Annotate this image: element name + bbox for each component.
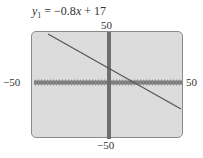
title-subscript: 1 <box>37 11 41 20</box>
x-min-label: −50 <box>3 76 20 88</box>
title-tail: + 17 <box>81 4 106 18</box>
equation-title: y1 = −0.8x + 17 <box>32 4 106 20</box>
plotted-line <box>48 34 181 109</box>
y-max-label: 50 <box>101 19 112 31</box>
plot-area <box>32 32 184 139</box>
y-min-label: −50 <box>97 139 114 151</box>
title-rhs: = −0.8 <box>44 4 76 18</box>
x-max-label: 50 <box>186 76 197 88</box>
y-axis <box>107 32 111 139</box>
calculator-screen <box>31 31 183 138</box>
